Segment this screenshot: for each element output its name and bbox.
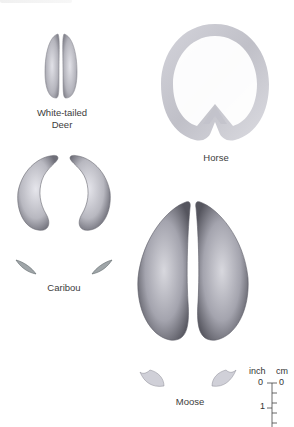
deer-print-icon xyxy=(36,32,86,100)
moose-left-dewclaw xyxy=(140,370,164,386)
horse-print-icon xyxy=(157,22,273,144)
moose-right-toe xyxy=(196,202,248,341)
horse-label: Horse xyxy=(186,152,246,164)
deer-left-toe xyxy=(45,34,59,98)
moose-dewclaws-icon xyxy=(138,368,238,390)
caribou-print-icon xyxy=(16,152,112,234)
moose-left-toe xyxy=(138,202,190,341)
caribou-left-dewclaw xyxy=(16,260,36,274)
scale-unit-inch: inch xyxy=(249,366,266,376)
deer-right-toe xyxy=(63,34,77,98)
caribou-right-toe xyxy=(70,155,110,230)
moose-print-icon xyxy=(134,198,252,344)
scale-inch-0: 0 xyxy=(258,377,263,387)
deer-label: White-tailed Deer xyxy=(20,107,104,131)
moose-right-dewclaw xyxy=(212,370,236,386)
scale-ruler xyxy=(264,377,280,427)
clipped-page-header xyxy=(0,0,72,3)
caribou-right-dewclaw xyxy=(92,260,112,274)
scale-unit-cm: cm xyxy=(276,366,288,376)
caribou-label: Caribou xyxy=(34,282,94,294)
caribou-left-toe xyxy=(18,155,58,230)
moose-label: Moose xyxy=(160,396,220,408)
caribou-dewclaws-icon xyxy=(14,258,114,278)
